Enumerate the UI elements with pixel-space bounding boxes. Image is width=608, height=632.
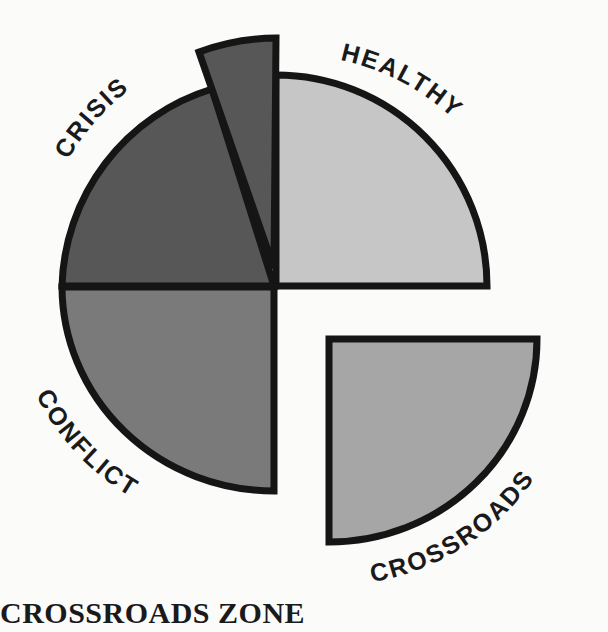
zone-title: CROSSROADS ZONE [0, 596, 305, 630]
crossroads-diagram: HEALTHY CRISIS CONFLICT CROSSROADS [0, 0, 608, 632]
